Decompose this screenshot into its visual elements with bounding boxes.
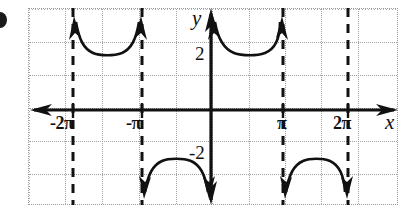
graph-screenshot: y x 2 -2 -2π -π π 2π [0, 0, 404, 214]
curve-arrow-up [69, 16, 81, 40]
plot-canvas [0, 0, 404, 214]
x-tick-label-pi: π [277, 114, 286, 132]
curve-branch-lower-left [145, 159, 208, 192]
curve-arrow-down [341, 176, 353, 199]
x-tick-label-2pi: 2π [333, 114, 351, 132]
curve-branch-lower-right [286, 159, 345, 192]
curve-arrow-up [276, 16, 288, 40]
x-tick-label-neg-2pi: -2π [50, 114, 73, 132]
curve-branch-upper-left [76, 22, 139, 55]
y-tick-label-neg-2: -2 [189, 143, 205, 162]
y-axis-label: y [192, 8, 201, 29]
y-tick-label-2: 2 [195, 44, 205, 63]
x-axis-label: x [385, 112, 394, 133]
y-axis [205, 8, 217, 205]
x-tick-label-neg-pi: -π [126, 114, 141, 132]
curve-branch-upper-right [215, 22, 280, 55]
